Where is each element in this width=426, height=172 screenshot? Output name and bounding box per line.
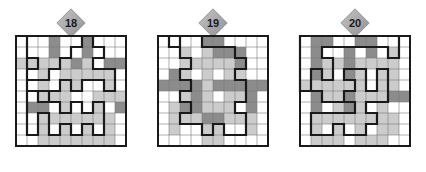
grid-cell <box>366 91 377 102</box>
grid-cell <box>235 80 246 91</box>
grid-cell <box>388 91 399 102</box>
grid-cell <box>224 47 235 58</box>
grid-cell <box>366 47 377 58</box>
grid-cell <box>71 135 82 146</box>
puzzle-grid[interactable] <box>14 34 128 148</box>
grid-cell <box>38 80 49 91</box>
grid-cell <box>191 102 202 113</box>
grid-cell <box>224 113 235 124</box>
grid-cell <box>388 124 399 135</box>
grid-cell <box>213 102 224 113</box>
grid-cell <box>213 113 224 124</box>
grid-cell <box>311 58 322 69</box>
grid-cell <box>355 80 366 91</box>
grid-cell <box>333 113 344 124</box>
grid-cell <box>93 91 104 102</box>
grid-cell <box>191 80 202 91</box>
grid-cell <box>202 102 213 113</box>
puzzle-panel: 19 <box>142 0 284 172</box>
grid-cell <box>224 102 235 113</box>
grid-cell <box>344 113 355 124</box>
grid-cell <box>191 58 202 69</box>
grid-cell <box>311 113 322 124</box>
grid-cell <box>202 47 213 58</box>
grid-cell <box>224 80 235 91</box>
grid-cell <box>399 91 410 102</box>
grid-cell <box>71 69 82 80</box>
grid-cell <box>93 102 104 113</box>
grid-cell <box>60 69 71 80</box>
grid-cell <box>38 124 49 135</box>
grid-cell <box>82 36 93 47</box>
grid-cell <box>60 124 71 135</box>
grid-cell <box>202 113 213 124</box>
grid-cell <box>104 69 115 80</box>
grid-cell <box>158 80 169 91</box>
grid-cell <box>344 58 355 69</box>
grid-cell <box>71 113 82 124</box>
grid-cell <box>224 58 235 69</box>
grid-cell <box>71 58 82 69</box>
grid-cell <box>311 80 322 91</box>
grid-cell <box>180 91 191 102</box>
grid-cell <box>93 113 104 124</box>
grid-cell <box>202 69 213 80</box>
grid-cell <box>60 135 71 146</box>
grid-cell <box>377 58 388 69</box>
puzzle-panel: 20 <box>284 0 426 172</box>
grid-cell <box>38 69 49 80</box>
grid-cell <box>333 58 344 69</box>
grid-cell <box>104 113 115 124</box>
grid-cell <box>311 69 322 80</box>
grid-cell <box>213 124 224 135</box>
grid-cell <box>366 36 377 47</box>
grid-cell <box>38 113 49 124</box>
grid-cell <box>355 113 366 124</box>
grid-cell <box>311 36 322 47</box>
grid-cell <box>49 47 60 58</box>
grid-cell <box>49 113 60 124</box>
grid-cell <box>235 58 246 69</box>
grid-cell <box>49 91 60 102</box>
puzzle-grid[interactable] <box>298 34 412 148</box>
grid-cell <box>333 102 344 113</box>
grid-cell <box>104 135 115 146</box>
puzzle-grid[interactable] <box>156 34 270 148</box>
grid-cell <box>366 58 377 69</box>
grid-cell <box>71 80 82 91</box>
grid-cell <box>115 58 126 69</box>
grid-cell <box>93 69 104 80</box>
grid-cell <box>180 58 191 69</box>
grid-cell <box>27 102 38 113</box>
grid-cell <box>322 58 333 69</box>
grid-cell <box>235 91 246 102</box>
grid-cell <box>49 36 60 47</box>
grid-cell <box>49 58 60 69</box>
grid-cell <box>82 124 93 135</box>
grid-cell <box>60 58 71 69</box>
grid-cell <box>235 69 246 80</box>
grid-cell <box>202 91 213 102</box>
grid-cell <box>169 102 180 113</box>
grid-cell <box>322 135 333 146</box>
grid-cell <box>377 135 388 146</box>
grid-cell <box>60 80 71 91</box>
grid-cell <box>246 113 257 124</box>
grid-cell <box>257 80 268 91</box>
grid-cell <box>38 135 49 146</box>
grid-cell <box>49 135 60 146</box>
grid-cell <box>388 113 399 124</box>
grid-cell <box>355 69 366 80</box>
grid-cell <box>235 113 246 124</box>
grid-cell <box>344 69 355 80</box>
grid-cell <box>333 135 344 146</box>
grid-cell <box>246 102 257 113</box>
grid-cell <box>82 47 93 58</box>
grid-cell <box>60 113 71 124</box>
grid-cell <box>180 102 191 113</box>
grid-cell <box>344 91 355 102</box>
grid-cell <box>322 113 333 124</box>
grid-cell <box>311 102 322 113</box>
puzzle-panel: 18 <box>0 0 142 172</box>
grid-cell <box>104 58 115 69</box>
